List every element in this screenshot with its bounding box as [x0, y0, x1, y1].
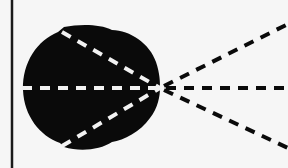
- outer-dashed-rays: [164, 24, 288, 148]
- outer-ray-lower: [164, 90, 288, 148]
- outer-ray-upper: [164, 24, 288, 86]
- diagram-canvas: [0, 0, 288, 168]
- diagram-figure: [0, 0, 288, 168]
